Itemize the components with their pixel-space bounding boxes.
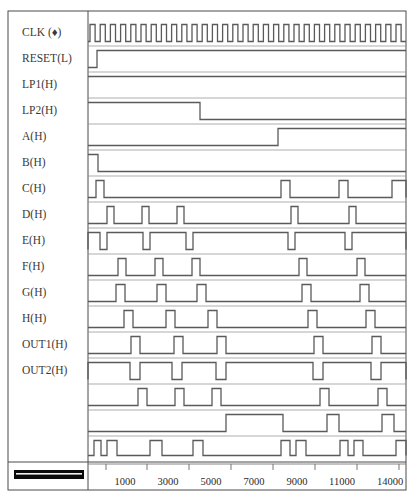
x-tick-label-5000: 5000 bbox=[201, 476, 222, 487]
signal-label-c: C(H) bbox=[22, 182, 46, 195]
signal-label-e: E(H) bbox=[22, 234, 45, 247]
x-tick-label-1000: 1000 bbox=[115, 476, 136, 487]
signal-label-h: H(H) bbox=[22, 312, 46, 325]
diagram-background bbox=[0, 0, 414, 501]
x-tick-label-9000: 9000 bbox=[287, 476, 308, 487]
signal-label-g: G(H) bbox=[22, 286, 46, 299]
signal-label-d: D(H) bbox=[22, 208, 46, 221]
signal-label-out1: OUT1(H) bbox=[22, 338, 68, 351]
signal-label-lp1: LP1(H) bbox=[22, 78, 57, 91]
signal-label-clk: CLK (♦) bbox=[22, 26, 62, 39]
scale-bar bbox=[14, 470, 84, 479]
signal-label-f: F(H) bbox=[22, 260, 45, 273]
x-tick-label-3000: 3000 bbox=[158, 476, 179, 487]
signal-label-a: A(H) bbox=[22, 130, 46, 143]
x-tick-label-14000: 14000 bbox=[377, 476, 403, 487]
signal-label-lp2: LP2(H) bbox=[22, 104, 57, 117]
timing-diagram-canvas: CLK (♦) RESET(L) LP1(H) LP2(H) A(H) B(H)… bbox=[0, 0, 414, 501]
signal-label-out2: OUT2(H) bbox=[22, 364, 68, 377]
x-tick-label-11000: 11000 bbox=[329, 476, 355, 487]
x-tick-label-7000: 7000 bbox=[244, 476, 265, 487]
signal-label-reset: RESET(L) bbox=[22, 52, 72, 65]
signal-label-b: B(H) bbox=[22, 156, 46, 169]
